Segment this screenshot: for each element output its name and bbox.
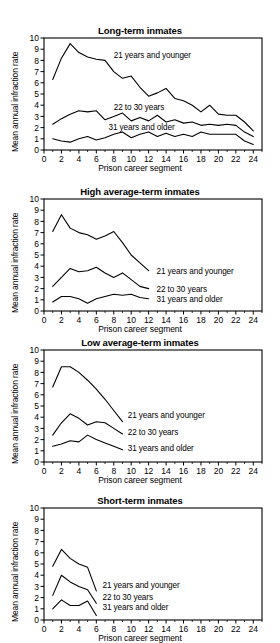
series-line (53, 294, 149, 303)
x-tick-label: 14 (161, 624, 171, 634)
y-tick-label: 4 (34, 570, 39, 580)
y-tick-label: 10 (30, 503, 40, 513)
x-tick-label: 0 (42, 466, 47, 476)
y-tick-label: 8 (34, 526, 39, 536)
x-tick-label: 18 (196, 466, 206, 476)
y-tick-label: 10 (30, 33, 40, 43)
x-tick-label: 16 (179, 154, 189, 164)
y-tick-label: 0 (34, 615, 39, 625)
x-tick-label: 6 (94, 466, 99, 476)
x-tick-label: 0 (42, 315, 47, 325)
y-tick-label: 1 (34, 446, 39, 456)
series-line (53, 267, 149, 288)
x-tick-label: 10 (126, 315, 136, 325)
y-tick-label: 5 (34, 250, 39, 260)
y-tick-label: 6 (34, 239, 39, 249)
plot-area: 02468101214161820222401234567891021 year… (0, 340, 280, 486)
x-tick-label: 14 (161, 466, 171, 476)
x-tick-label: 24 (249, 154, 259, 164)
series-label: 22 to 30 years (102, 593, 153, 602)
x-tick-label: 8 (111, 315, 116, 325)
y-tick-label: 1 (34, 134, 39, 144)
x-tick-label: 10 (126, 466, 136, 476)
series-line (53, 575, 97, 603)
y-tick-label: 1 (34, 604, 39, 614)
x-tick-label: 14 (161, 315, 171, 325)
y-tick-label: 2 (34, 123, 39, 133)
x-tick-label: 6 (94, 315, 99, 325)
x-tick-label: 20 (214, 315, 224, 325)
x-tick-label: 2 (59, 624, 64, 634)
y-tick-label: 5 (34, 559, 39, 569)
x-tick-label: 20 (214, 624, 224, 634)
x-tick-label: 8 (111, 624, 116, 634)
x-tick-label: 24 (249, 315, 259, 325)
series-line (53, 367, 123, 422)
series-label: 22 to 30 years (128, 428, 179, 437)
y-tick-label: 6 (34, 548, 39, 558)
series-label: 31 years and older (156, 295, 222, 304)
y-tick-label: 5 (34, 401, 39, 411)
x-tick-label: 4 (77, 624, 82, 634)
plot-area: 02468101214161820222401234567891021 year… (0, 183, 280, 333)
x-tick-label: 8 (111, 466, 116, 476)
chart-panel: Short-term inmatesMean annual infraction… (0, 492, 280, 642)
series-label: 21 years and younger (156, 267, 234, 276)
series-line (53, 215, 149, 271)
y-tick-label: 6 (34, 390, 39, 400)
y-tick-label: 4 (34, 261, 39, 271)
x-tick-label: 12 (144, 466, 154, 476)
x-tick-label: 10 (126, 154, 136, 164)
series-label: 21 years and younger (128, 411, 206, 420)
x-tick-label: 24 (249, 624, 259, 634)
y-tick-label: 5 (34, 89, 39, 99)
y-tick-label: 8 (34, 56, 39, 66)
x-tick-label: 0 (42, 154, 47, 164)
y-tick-label: 7 (34, 67, 39, 77)
y-tick-label: 8 (34, 368, 39, 378)
x-tick-label: 2 (59, 154, 64, 164)
x-tick-label: 12 (144, 624, 154, 634)
plot-area: 02468101214161820222401234567891021 year… (0, 492, 280, 642)
x-tick-label: 22 (231, 466, 241, 476)
y-tick-label: 2 (34, 593, 39, 603)
x-tick-label: 18 (196, 315, 206, 325)
y-tick-label: 2 (34, 284, 39, 294)
y-tick-label: 6 (34, 78, 39, 88)
series-label: 22 to 30 years (156, 285, 207, 294)
y-tick-label: 7 (34, 228, 39, 238)
y-tick-label: 3 (34, 582, 39, 592)
y-tick-label: 3 (34, 273, 39, 283)
y-tick-label: 3 (34, 424, 39, 434)
x-tick-label: 20 (214, 466, 224, 476)
y-tick-label: 0 (34, 145, 39, 155)
y-tick-label: 4 (34, 412, 39, 422)
series-label: 22 to 30 years (114, 103, 165, 112)
y-tick-label: 9 (34, 514, 39, 524)
series-label: 21 years and younger (114, 51, 192, 60)
x-tick-label: 16 (179, 624, 189, 634)
y-tick-label: 4 (34, 100, 39, 110)
x-tick-label: 22 (231, 624, 241, 634)
y-tick-label: 10 (30, 194, 40, 204)
y-tick-label: 9 (34, 44, 39, 54)
series-line (53, 132, 254, 144)
y-tick-label: 0 (34, 306, 39, 316)
y-tick-label: 0 (34, 457, 39, 467)
x-tick-label: 22 (231, 315, 241, 325)
x-tick-label: 2 (59, 315, 64, 325)
series-label: 31 years and older (128, 444, 194, 453)
plot-area: 02468101214161820222401234567891021 year… (0, 22, 280, 172)
y-tick-label: 7 (34, 537, 39, 547)
series-line (53, 600, 97, 616)
chart-panel: Long-term inmatesMean annual infraction … (0, 22, 280, 172)
y-tick-label: 1 (34, 295, 39, 305)
x-tick-label: 12 (144, 315, 154, 325)
y-tick-label: 8 (34, 217, 39, 227)
y-tick-label: 2 (34, 435, 39, 445)
x-tick-label: 16 (179, 315, 189, 325)
x-tick-label: 18 (196, 154, 206, 164)
y-tick-label: 10 (30, 345, 40, 355)
x-tick-label: 12 (144, 154, 154, 164)
